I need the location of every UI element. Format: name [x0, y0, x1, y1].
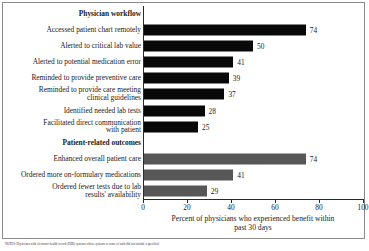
bar-row: Reminded to provide preventive care39: [0, 70, 369, 86]
bar-category-label: Ordered fewer tests due to lab results' …: [52, 183, 141, 198]
bar-category-label: Reminded to provide care meeting clinica…: [39, 87, 141, 102]
group-header-label: Patient-related outcomes: [63, 139, 141, 147]
x-tick-label: 20: [175, 203, 199, 212]
bar-value-label: 28: [209, 106, 216, 115]
bar: [143, 57, 233, 68]
bar: [143, 121, 198, 132]
bar: [143, 73, 229, 84]
bar-category-label: Accessed patient chart remotely: [46, 26, 141, 34]
y-axis-line: [143, 6, 144, 199]
bar-category-label: Identified needed lab tests: [64, 107, 141, 115]
x-tick-label: 100: [351, 203, 369, 212]
bar-row: Identified needed lab tests28: [0, 103, 369, 119]
bar: [143, 89, 224, 100]
bar-value-label: 25: [202, 122, 209, 131]
bar-value-label: 74: [310, 154, 317, 163]
bar-row: Accessed patient chart remotely74: [0, 22, 369, 38]
bar: [143, 169, 233, 180]
bar-row: Enhanced overall patient care74: [0, 151, 369, 167]
bar-value-label: 41: [237, 58, 244, 67]
bar: [143, 153, 306, 164]
bar-category-label: Alerted to critical lab value: [60, 42, 141, 50]
bar-row: Alerted to critical lab value50: [0, 38, 369, 54]
bar-value-label: 41: [237, 170, 244, 179]
group-header-row: Patient-related outcomes: [0, 135, 369, 151]
bar-row: Ordered more on-formulary medications41: [0, 167, 369, 183]
bar-value-label: 37: [228, 90, 235, 99]
bar-row: Reminded to provide care meeting clinica…: [0, 86, 369, 102]
bar-value-label: 29: [211, 186, 218, 195]
bar-category-label: Enhanced overall patient care: [53, 155, 141, 163]
footnote: NOTES: Physicians with electronic health…: [5, 243, 364, 247]
group-header-row: Physician workflow: [0, 6, 369, 22]
figure-container: Physician workflowAccessed patient chart…: [0, 0, 369, 251]
x-axis-line: [143, 199, 363, 200]
x-axis-title: Percent of physicians who experienced be…: [143, 214, 363, 232]
bar-value-label: 74: [310, 26, 317, 35]
bar-value-label: 50: [257, 42, 264, 51]
x-tick-label: 40: [219, 203, 243, 212]
x-tick-label: 0: [131, 203, 155, 212]
bar-row: Facilitated direct communication with pa…: [0, 119, 369, 135]
bar: [143, 25, 306, 36]
bar-category-label: Reminded to provide preventive care: [31, 75, 141, 83]
x-tick-label: 80: [307, 203, 331, 212]
x-tick-label: 60: [263, 203, 287, 212]
bar: [143, 185, 207, 196]
bar-row: Ordered fewer tests due to lab results' …: [0, 183, 369, 199]
bar-category-label: Alerted to potential medication error: [33, 58, 141, 66]
plot-area: Physician workflowAccessed patient chart…: [0, 0, 369, 251]
bar: [143, 41, 253, 52]
bar-value-label: 39: [233, 74, 240, 83]
bar-row: Alerted to potential medication error41: [0, 54, 369, 70]
bar: [143, 105, 205, 116]
group-header-label: Physician workflow: [79, 10, 141, 18]
bar-category-label: Ordered more on-formulary medications: [21, 171, 141, 179]
bar-category-label: Facilitated direct communication with pa…: [43, 119, 141, 134]
